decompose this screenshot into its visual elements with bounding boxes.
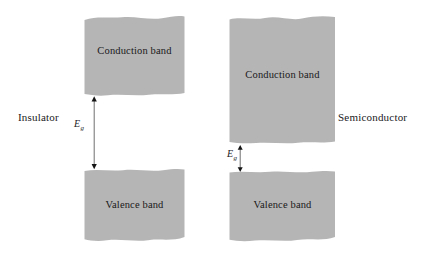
insulator-conduction-band-shape <box>83 14 186 97</box>
insulator-eg-subscript: g <box>80 124 84 132</box>
insulator-valence-band: Valence band <box>83 168 186 243</box>
semiconductor-valence-band-shape <box>228 170 337 243</box>
semiconductor-conduction-band-shape <box>228 14 337 145</box>
semiconductor-label: Semiconductor <box>338 111 407 123</box>
insulator-valence-band-shape <box>83 168 186 243</box>
insulator-label: Insulator <box>18 111 59 123</box>
semiconductor-valence-band: Valence band <box>228 170 337 243</box>
double-headed-arrow-icon <box>88 95 101 171</box>
insulator-conduction-band: Conduction band <box>83 14 186 97</box>
band-diagram-figure: Insulator Conduction band Eg Valence ban… <box>0 0 422 260</box>
semiconductor-band-gap-label: Eg <box>227 148 237 159</box>
insulator-band-gap-label: Eg <box>74 118 84 129</box>
semiconductor-eg-subscript: g <box>233 154 237 162</box>
insulator-band-gap-arrow <box>88 95 101 171</box>
semiconductor-conduction-band: Conduction band <box>228 14 337 145</box>
